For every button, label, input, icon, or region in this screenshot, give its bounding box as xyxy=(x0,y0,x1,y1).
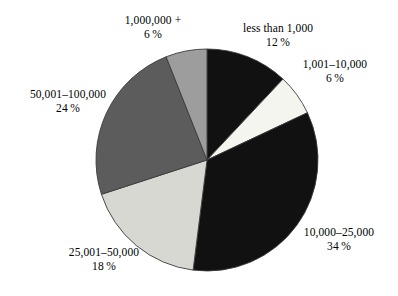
pie-chart-figure: 1,000,000 + 6 % less than 1,000 12 % 1,0… xyxy=(0,0,398,296)
pie-label-1001-10000: 1,001–10,000 6 % xyxy=(278,58,392,85)
pie-label-25001-50000: 25,001–50,000 18 % xyxy=(42,246,166,273)
pie-label-50001-100000-percent: 24 % xyxy=(6,102,130,116)
pie-label-lessthan1000-name: less than 1,000 xyxy=(218,22,338,36)
pie-label-10000-25000-percent: 34 % xyxy=(282,240,396,254)
pie-label-1000000plus-percent: 6 % xyxy=(93,28,213,42)
pie-label-1000000plus: 1,000,000 + 6 % xyxy=(93,14,213,41)
pie-label-50001-100000: 50,001–100,000 24 % xyxy=(6,88,130,115)
pie-label-1001-10000-percent: 6 % xyxy=(278,72,392,86)
pie-label-25001-50000-name: 25,001–50,000 xyxy=(42,246,166,260)
pie-label-lessthan1000-percent: 12 % xyxy=(218,36,338,50)
pie-label-25001-50000-percent: 18 % xyxy=(42,260,166,274)
pie-label-1001-10000-name: 1,001–10,000 xyxy=(278,58,392,72)
pie-label-10000-25000: 10,000–25,000 34 % xyxy=(282,226,396,253)
pie-label-50001-100000-name: 50,001–100,000 xyxy=(6,88,130,102)
pie-label-lessthan1000: less than 1,000 12 % xyxy=(218,22,338,49)
pie-label-1000000plus-name: 1,000,000 + xyxy=(93,14,213,28)
pie-label-10000-25000-name: 10,000–25,000 xyxy=(282,226,396,240)
